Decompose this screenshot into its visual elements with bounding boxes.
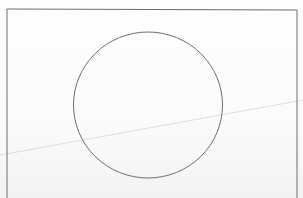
circle-shape [74, 32, 223, 178]
drawing [0, 0, 303, 198]
rectangle-frame [7, 9, 297, 198]
paper-photo [0, 0, 303, 198]
crease-line [0, 100, 303, 155]
